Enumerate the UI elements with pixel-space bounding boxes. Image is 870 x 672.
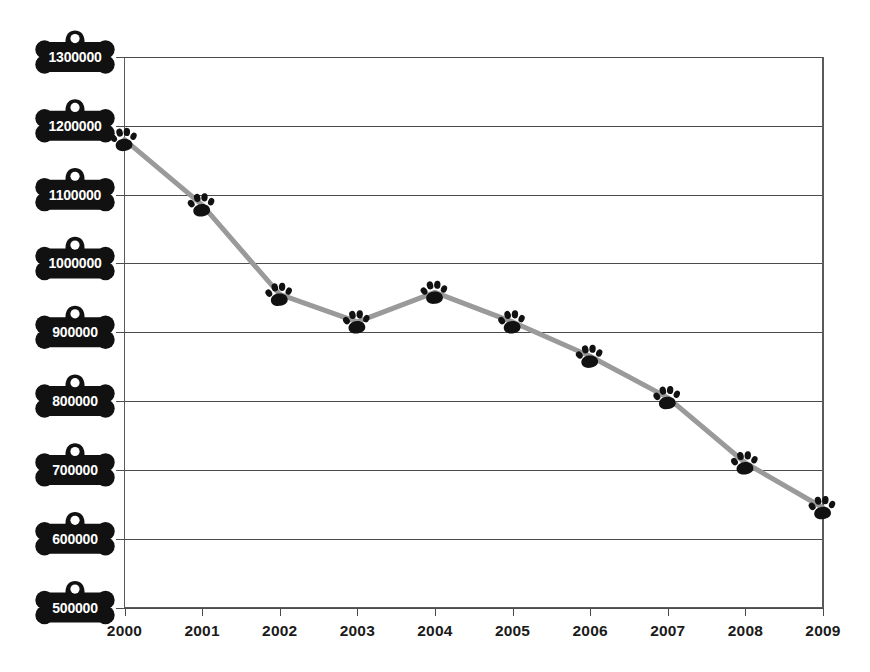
bone-tag-ring-hole [70, 447, 79, 456]
x-tick-label: 2007 [650, 622, 685, 639]
bone-tag-ring-hole [70, 585, 79, 594]
bone-tag-ring-hole [70, 378, 79, 387]
y-tick-label: 1100000 [49, 187, 102, 203]
x-tick-label: 2000 [107, 622, 142, 639]
bone-tag-ring-hole [70, 516, 79, 525]
y-tick-label: 1000000 [48, 255, 102, 271]
line-chart: 1300000120000011000001000000900000800000… [0, 0, 870, 672]
bone-lobe-2 [35, 399, 53, 417]
x-tick-label: 2004 [417, 622, 452, 639]
bone-lobe-2 [35, 537, 53, 555]
bone-lobe-4 [96, 537, 114, 555]
x-tick-label: 2009 [805, 622, 840, 639]
y-tick-label: 1300000 [48, 49, 102, 65]
bone-lobe-4 [96, 399, 114, 417]
bone-lobe-2 [35, 331, 53, 349]
chart-background [0, 0, 870, 672]
bone-lobe-4 [96, 468, 114, 486]
bone-tag-ring-hole [70, 240, 79, 249]
y-tick-label: 1200000 [48, 118, 102, 134]
bone-tag-ring-hole [70, 309, 79, 318]
y-tick-label: 500000 [52, 600, 98, 616]
x-tick-label: 2002 [262, 622, 297, 639]
x-tick-label: 2003 [340, 622, 375, 639]
x-tick-label: 2001 [184, 622, 219, 639]
bone-tag-ring-hole [70, 103, 79, 112]
y-tick-label: 600000 [52, 531, 98, 547]
bone-lobe-2 [35, 606, 53, 624]
chart-container: 1300000120000011000001000000900000800000… [0, 0, 870, 672]
x-tick-label: 2008 [728, 622, 763, 639]
bone-tag-ring-hole [70, 34, 79, 43]
x-tick-label: 2006 [573, 622, 608, 639]
bone-lobe-4 [96, 331, 114, 349]
y-axis-bone-tag-labels: 1300000120000011000001000000900000800000… [35, 30, 114, 624]
bone-lobe-2 [35, 468, 53, 486]
x-tick-label: 2005 [495, 622, 530, 639]
y-tick-label: 700000 [52, 462, 98, 478]
bone-tag-ring-hole [70, 172, 79, 181]
y-tick-label: 800000 [52, 393, 98, 409]
y-tick-label: 900000 [52, 324, 98, 340]
